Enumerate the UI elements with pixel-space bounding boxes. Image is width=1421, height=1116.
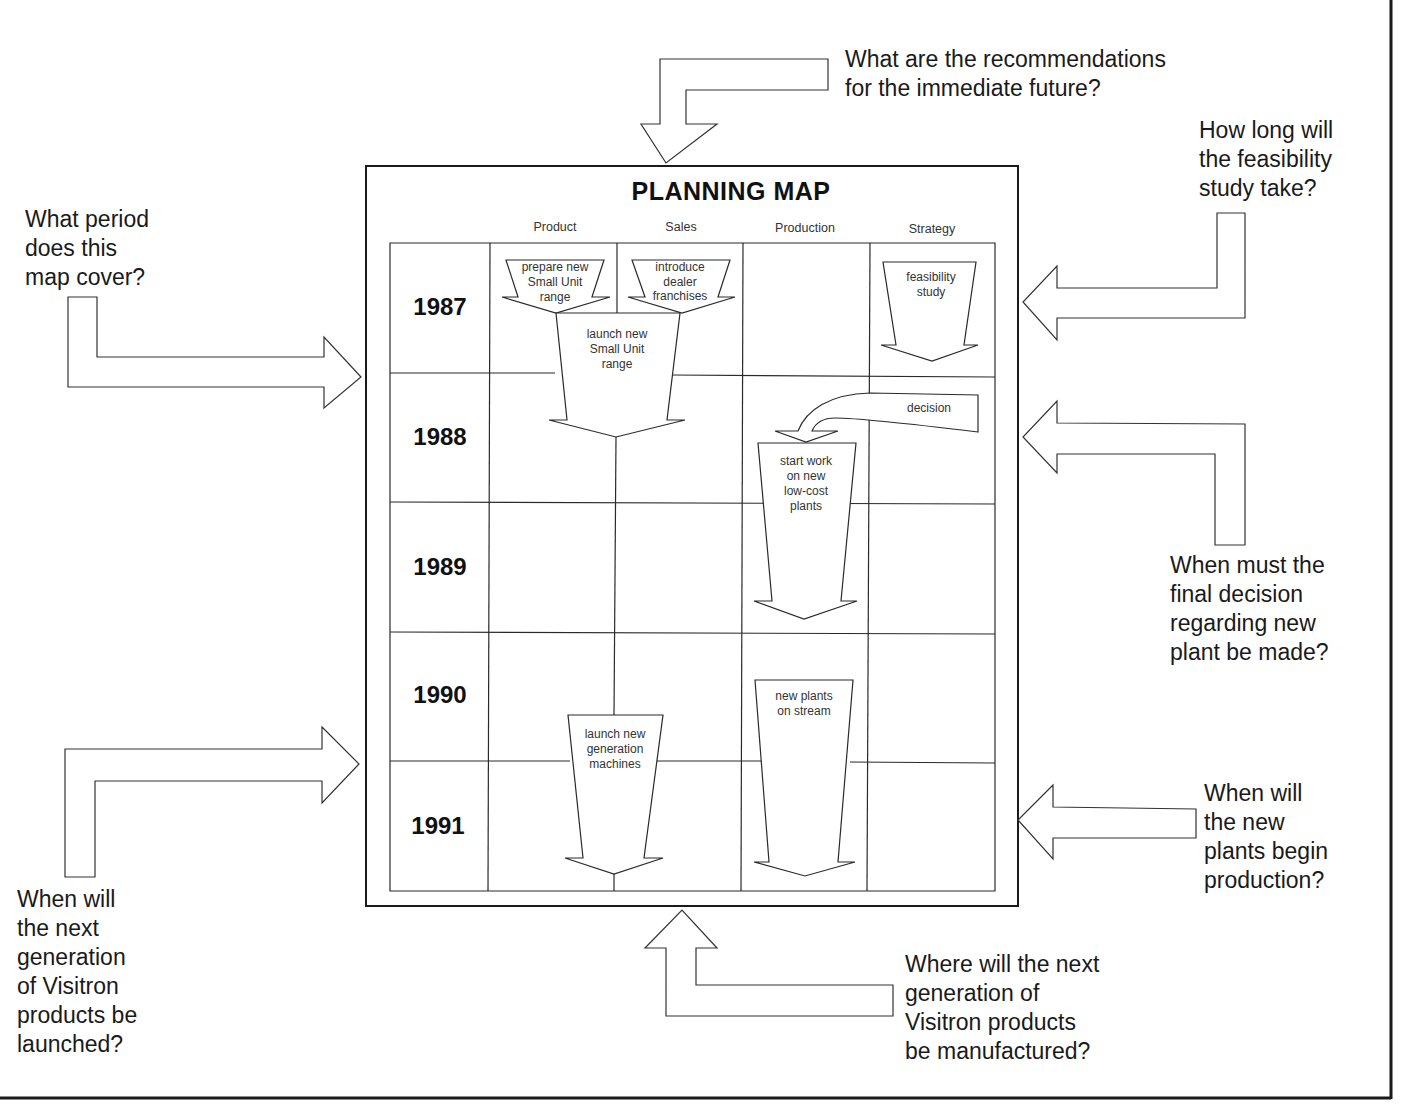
- year-label-1987: 1987: [391, 293, 489, 321]
- activity-dealer-franchises: introduce dealer franchises: [635, 260, 725, 304]
- arrow-period-question: [68, 297, 361, 408]
- arrow-manufacture-question: [645, 910, 893, 1016]
- question-period-covered: What period does this map cover?: [25, 205, 149, 292]
- column-header-production: Production: [745, 221, 865, 235]
- activity-launch-small-unit: launch new Small Unit range: [572, 327, 662, 372]
- year-label-1991: 1991: [389, 812, 487, 840]
- question-recommendations: What are the recommendations for the imm…: [845, 45, 1166, 103]
- column-header-product: Product: [495, 220, 615, 234]
- year-label-1989: 1989: [391, 553, 489, 581]
- activity-new-plants-stream: new plants on stream: [760, 689, 848, 719]
- year-label-1990: 1990: [391, 681, 489, 709]
- activity-feasibility-study: feasibility study: [887, 270, 975, 300]
- activity-launch-new-generation: launch new generation machines: [570, 727, 660, 772]
- activity-start-work-plants: start work on new low-cost plants: [762, 454, 850, 514]
- arrow-plants-production-question: [1018, 785, 1196, 859]
- arrow-final-decision-question: [1023, 401, 1245, 545]
- year-label-1988: 1988: [391, 423, 489, 451]
- column-header-strategy: Strategy: [872, 222, 992, 236]
- arrow-recommendations: [641, 59, 828, 163]
- arrow-feasibility-question: [1023, 213, 1245, 340]
- activity-decision: decision: [890, 401, 968, 416]
- map-title: PLANNING MAP: [566, 177, 896, 206]
- question-feasibility-duration: How long will the feasibility study take…: [1199, 116, 1333, 203]
- column-header-sales: Sales: [621, 220, 741, 234]
- question-manufacture-location: Where will the next generation of Visitr…: [905, 950, 1099, 1066]
- arrow-next-generation-question: [65, 727, 359, 877]
- question-plants-production: When will the new plants begin productio…: [1204, 779, 1328, 895]
- question-final-decision: When must the final decision regarding n…: [1170, 551, 1329, 667]
- activity-prepare-small-unit: prepare new Small Unit range: [510, 260, 600, 305]
- question-next-generation-launch: When will the next generation of Visitro…: [17, 885, 137, 1059]
